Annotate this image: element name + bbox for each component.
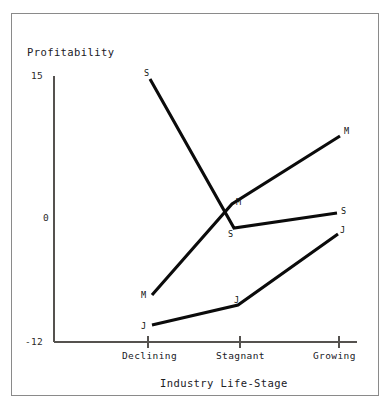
y-tick-label-0: 0 (43, 213, 49, 223)
x-category-label-declining: Declining (122, 351, 177, 361)
x-axis-title: Industry Life-Stage (160, 377, 288, 389)
series-line-j (152, 234, 338, 325)
point-label-s-stagnant: S (228, 230, 233, 239)
x-category-label-growing: Growing (313, 351, 356, 361)
point-label-j-stagnant: J (234, 296, 239, 305)
chart-container: Profitability 15 0 -12 Declining Stagnan… (0, 0, 392, 413)
point-label-j-declining: J (141, 322, 146, 331)
point-label-m-growing: M (344, 127, 349, 136)
point-label-j-growing: J (340, 226, 345, 235)
series-line-s (150, 79, 337, 228)
y-tick-label-neg12: -12 (25, 337, 43, 347)
point-label-m-stagnant: M (236, 198, 241, 207)
x-category-label-stagnant: Stagnant (216, 351, 265, 361)
y-axis-title-wrapper: Profitability (27, 41, 114, 60)
point-label-s-declining: S (144, 69, 149, 78)
point-label-s-growing: S (341, 207, 346, 216)
point-label-m-declining: M (141, 291, 146, 300)
x-axis-title-wrapper: Industry Life-Stage (160, 372, 288, 391)
y-axis-title: Profitability (27, 46, 114, 58)
y-tick-label-15: 15 (31, 71, 43, 81)
